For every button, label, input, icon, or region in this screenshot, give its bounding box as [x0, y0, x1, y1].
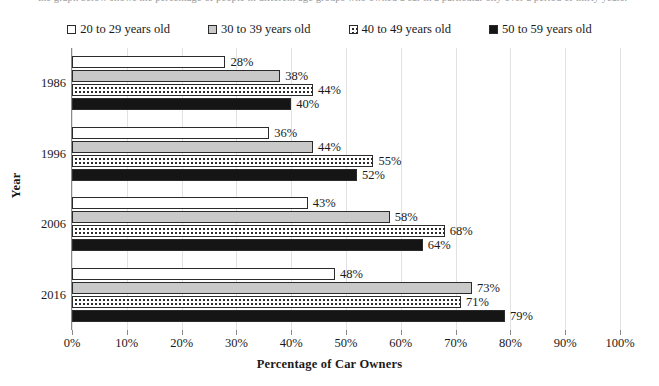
bar[interactable] [72, 211, 390, 223]
bar-row: 73% [72, 282, 620, 294]
plot-area: 28%38%44%40%36%44%55%52%43%58%68%64%48%7… [72, 48, 620, 330]
bar-row: 36% [72, 127, 620, 139]
x-tick-label: 60% [378, 336, 424, 350]
bar[interactable] [72, 225, 445, 237]
bar[interactable] [72, 84, 313, 96]
x-tick-mark [236, 330, 237, 335]
bar[interactable] [72, 127, 269, 139]
bar-group: 43%58%68%64% [72, 189, 620, 260]
bar-row: 79% [72, 310, 620, 322]
bar-value-label: 55% [378, 154, 401, 167]
bar-value-label: 79% [510, 309, 533, 322]
bar-row: 44% [72, 84, 620, 96]
bar-row: 52% [72, 169, 620, 181]
bar-row: 55% [72, 155, 620, 167]
bar-value-label: 28% [230, 56, 253, 69]
bar-value-label: 44% [318, 140, 341, 153]
bar-row: 48% [72, 268, 620, 280]
x-tick-mark [127, 330, 128, 335]
bar-group: 28%38%44%40% [72, 48, 620, 119]
x-tick-mark [565, 330, 566, 335]
x-tick-label: 10% [104, 336, 150, 350]
bar-group: 48%73%71%79% [72, 260, 620, 331]
bar[interactable] [72, 197, 308, 209]
x-tick-mark [182, 330, 183, 335]
x-tick-label: 20% [159, 336, 205, 350]
bar[interactable] [72, 56, 225, 68]
x-tick-label: 0% [49, 336, 95, 350]
bar-value-label: 43% [313, 197, 336, 210]
x-tick-label: 80% [487, 336, 533, 350]
bar-value-label: 44% [318, 84, 341, 97]
bar-row: 38% [72, 70, 620, 82]
x-tick-label: 70% [433, 336, 479, 350]
x-tick-label: 90% [542, 336, 588, 350]
x-tick-label: 50% [323, 336, 369, 350]
bar-row: 71% [72, 296, 620, 308]
bar-value-label: 36% [274, 126, 297, 139]
bar-row: 40% [72, 98, 620, 110]
y-tick-label: 1986 [14, 76, 66, 90]
bar[interactable] [72, 239, 423, 251]
bar-value-label: 64% [428, 239, 451, 252]
x-tick-mark [346, 330, 347, 335]
bar-value-label: 52% [362, 168, 385, 181]
y-tick-label: 2006 [14, 217, 66, 231]
bar-row: 43% [72, 197, 620, 209]
bar-row: 68% [72, 225, 620, 237]
y-axis-title: Year [9, 156, 24, 216]
x-tick-mark [72, 330, 73, 335]
bar-row: 44% [72, 141, 620, 153]
x-tick-mark [620, 330, 621, 335]
bar[interactable] [72, 310, 505, 322]
bar-value-label: 58% [395, 211, 418, 224]
bar-value-label: 40% [296, 98, 319, 111]
bar-row: 28% [72, 56, 620, 68]
x-tick-label: 40% [268, 336, 314, 350]
bar[interactable] [72, 169, 357, 181]
bar-chart: 28%38%44%40%36%44%55%52%43%58%68%64%48%7… [0, 0, 659, 386]
bar[interactable] [72, 268, 335, 280]
bar[interactable] [72, 141, 313, 153]
bar[interactable] [72, 155, 373, 167]
x-tick-label: 100% [597, 336, 643, 350]
y-tick-label: 1996 [14, 147, 66, 161]
bar-value-label: 48% [340, 267, 363, 280]
gridline [620, 48, 621, 330]
x-tick-mark [456, 330, 457, 335]
bar[interactable] [72, 282, 472, 294]
x-tick-mark [291, 330, 292, 335]
bar-row: 64% [72, 239, 620, 251]
y-tick-label: 2016 [14, 288, 66, 302]
bar-row: 58% [72, 211, 620, 223]
bar-group: 36%44%55%52% [72, 119, 620, 190]
bar-value-label: 68% [450, 225, 473, 238]
bar[interactable] [72, 296, 461, 308]
bar-value-label: 73% [477, 281, 500, 294]
x-axis-title: Percentage of Car Owners [0, 357, 659, 372]
bar[interactable] [72, 70, 280, 82]
x-tick-mark [510, 330, 511, 335]
bar-value-label: 71% [466, 295, 489, 308]
x-tick-mark [401, 330, 402, 335]
x-tick-label: 30% [213, 336, 259, 350]
bar[interactable] [72, 98, 291, 110]
bar-value-label: 38% [285, 70, 308, 83]
